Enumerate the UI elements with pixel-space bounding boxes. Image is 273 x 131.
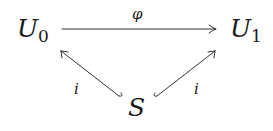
s-symbol: S [128,93,145,122]
u0-subscript: 0 [38,26,49,46]
u0-symbol: U [17,14,38,43]
arrow-right-inclusion [154,51,215,96]
node-u1: U1 [230,14,262,46]
label-phi: φ [132,5,143,23]
commutative-diagram: U0 U1 S φ i i [0,0,273,131]
u1-symbol: U [230,14,251,43]
label-i-right: i [194,80,199,98]
node-s: S [128,93,145,122]
u1-subscript: 1 [251,26,262,46]
arrow-left-inclusion [61,51,122,96]
arrow-phi [62,25,216,33]
label-i-left: i [74,80,79,98]
node-u0: U0 [17,14,49,46]
